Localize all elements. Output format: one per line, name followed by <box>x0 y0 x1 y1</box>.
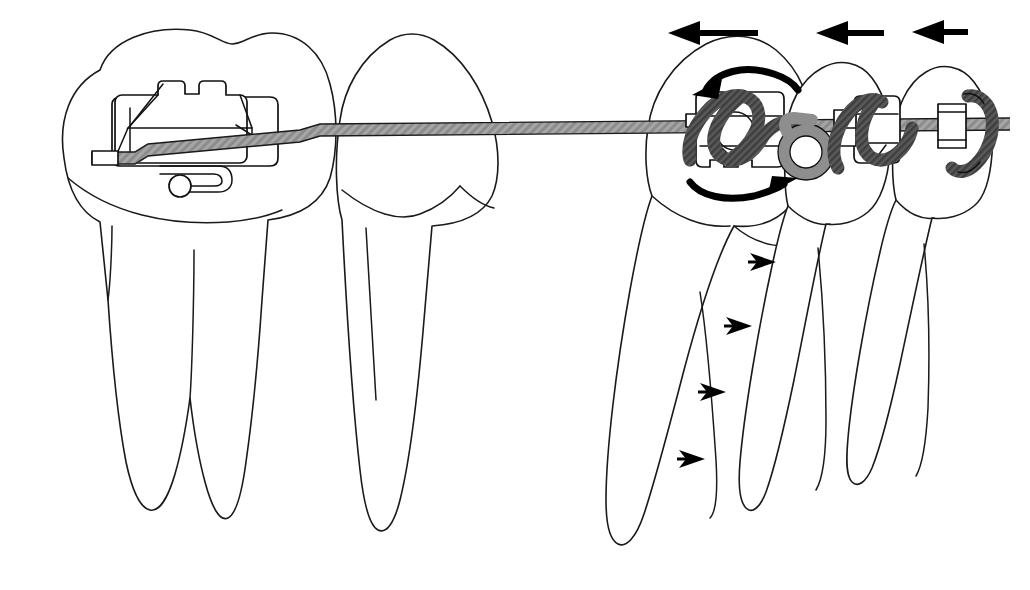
orthodontic-diagram-svg <box>0 0 1030 590</box>
arrow-translation-3 <box>912 20 968 44</box>
illustration-canvas <box>0 0 1030 590</box>
arrow-translation-2 <box>816 21 884 45</box>
root-arrow-2 <box>724 317 752 335</box>
tooth-second-premolar <box>336 34 498 531</box>
root-arrow-4 <box>677 450 705 468</box>
